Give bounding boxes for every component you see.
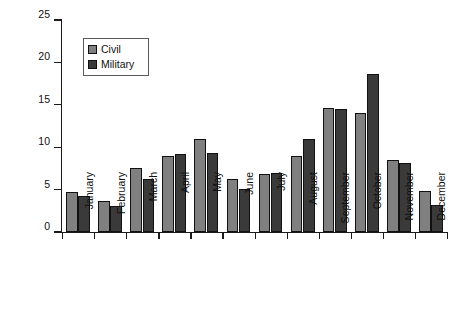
legend-label-military: Military xyxy=(101,59,134,70)
civil-swatch-icon xyxy=(88,45,97,54)
military-swatch-icon xyxy=(88,60,97,69)
y-tick xyxy=(54,19,61,20)
x-label-november: November xyxy=(403,172,415,242)
bar-civil-november xyxy=(387,160,399,232)
bar-civil-march xyxy=(130,168,142,232)
x-label-september: September xyxy=(339,172,351,242)
x-label-august: August xyxy=(307,172,319,242)
bar-civil-june xyxy=(227,179,239,232)
y-tick-label: 15 xyxy=(26,94,50,105)
legend: Civil Military xyxy=(83,38,149,76)
legend-label-civil: Civil xyxy=(101,44,121,55)
bar-civil-october xyxy=(355,113,367,232)
x-tick xyxy=(415,232,416,239)
bar-civil-july xyxy=(259,174,271,232)
x-label-may: May xyxy=(211,172,223,242)
y-tick xyxy=(54,62,61,63)
legend-entry-military: Military xyxy=(88,57,148,72)
bar-chart: Proportion of reported strikes (%) 05101… xyxy=(0,0,464,310)
x-label-june: June xyxy=(243,172,255,242)
y-tick xyxy=(54,147,61,148)
bar-civil-december xyxy=(419,191,431,232)
bar-civil-august xyxy=(291,156,303,232)
x-label-october: October xyxy=(371,172,383,242)
y-tick xyxy=(54,104,61,105)
x-label-february: February xyxy=(115,172,127,242)
bar-civil-february xyxy=(98,201,110,232)
y-tick-label: 0 xyxy=(26,221,50,232)
x-label-january: January xyxy=(83,172,95,242)
y-tick-label: 10 xyxy=(26,136,50,147)
x-tick xyxy=(62,232,63,239)
bar-civil-september xyxy=(323,108,335,232)
bar-civil-january xyxy=(66,192,78,232)
y-tick-label: 20 xyxy=(26,51,50,62)
x-label-december: December xyxy=(435,172,447,242)
legend-entry-civil: Civil xyxy=(88,42,148,57)
x-label-july: July xyxy=(275,172,287,242)
bar-civil-may xyxy=(194,139,206,232)
x-tick xyxy=(383,232,384,239)
y-tick xyxy=(54,231,61,232)
y-tick-label: 5 xyxy=(26,179,50,190)
x-tick xyxy=(447,232,448,239)
y-tick xyxy=(54,189,61,190)
x-label-march: March xyxy=(147,172,159,242)
bar-civil-april xyxy=(162,156,174,232)
x-label-april: April xyxy=(179,172,191,242)
y-tick-label: 25 xyxy=(26,9,50,20)
